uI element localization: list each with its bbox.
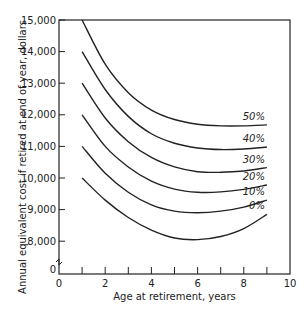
x-tick-label: 4	[148, 278, 154, 289]
curve-label: 20%	[243, 171, 265, 182]
x-tick-label: 8	[241, 278, 247, 289]
x-tick-label: 10	[284, 278, 297, 289]
curve-50pct	[82, 20, 267, 126]
curve-40pct	[82, 52, 267, 150]
plot-area: 15,00014,00013,00012,00011,00010,0009,00…	[17, 15, 296, 303]
y-tick-label: 9,000	[27, 204, 56, 215]
x-axis-label: Age at retirement, years	[113, 291, 236, 302]
x-tick-label: 6	[194, 278, 200, 289]
curve-10pct	[82, 146, 267, 212]
curve-label: 0%	[249, 200, 265, 211]
x-tick-label: 2	[102, 278, 108, 289]
curve-0pct	[82, 178, 267, 240]
y-tick-label: 0	[50, 264, 56, 275]
axis-break-mark	[56, 259, 62, 265]
y-tick-label: 8,000	[27, 236, 56, 247]
curve-label: 40%	[243, 133, 265, 144]
curve-label: 10%	[243, 186, 265, 197]
x-tick-label: 0	[56, 278, 62, 289]
curve-label: 30%	[243, 154, 265, 165]
curve-label: 50%	[243, 111, 265, 122]
y-axis-label: Annual equivalent cost if retired at end…	[17, 20, 28, 294]
plot-frame	[59, 20, 290, 274]
chart: 15,00014,00013,00012,00011,00010,0009,00…	[0, 0, 307, 309]
